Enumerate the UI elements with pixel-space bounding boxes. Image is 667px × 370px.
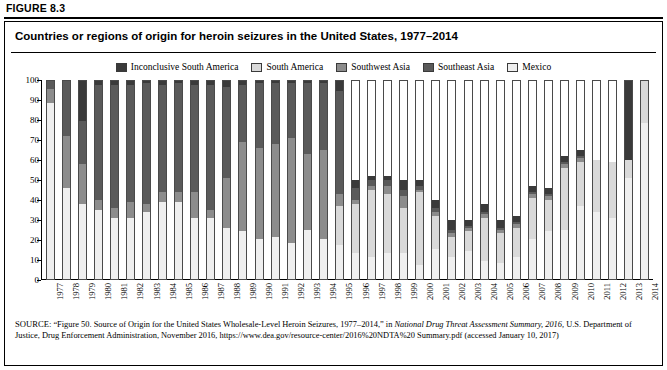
x-tick-slot: 1982 [122, 282, 138, 322]
figure-label: FIGURE 8.3 [6, 2, 65, 14]
bar-segment [79, 121, 86, 165]
bar-segment [625, 81, 632, 160]
stacked-bar [512, 80, 521, 280]
bar-segment [223, 228, 230, 279]
bar-segment [641, 81, 648, 123]
bar-segment [352, 204, 359, 254]
bar-segment [336, 245, 343, 279]
bar-segment [448, 257, 455, 279]
x-tick-slot: 2006 [508, 282, 524, 322]
bar-segment [159, 192, 166, 202]
bar-segment [400, 180, 407, 190]
y-tick-mark [37, 200, 41, 201]
bar-segment [63, 188, 70, 279]
bar-segment [127, 218, 134, 279]
stacked-bar [560, 80, 569, 280]
bar-segment [288, 243, 295, 279]
legend-item: South America [251, 62, 323, 72]
bar-slot [299, 80, 315, 280]
bar-segment [545, 231, 552, 279]
bar-segment [641, 123, 648, 279]
bar-slot [74, 80, 90, 280]
stacked-bar [640, 80, 649, 280]
bar-slot [508, 80, 524, 280]
stacked-bar [255, 80, 264, 280]
stacked-bar [544, 80, 553, 280]
legend-swatch-icon [251, 63, 262, 72]
bar-slot [605, 80, 621, 280]
bar-segment [191, 192, 198, 218]
x-tick-slot: 1978 [58, 282, 74, 322]
bar-segment [304, 230, 311, 280]
stacked-bar [206, 80, 215, 280]
bar-segment [448, 237, 455, 257]
bar-segment [400, 208, 407, 254]
bar-segment [304, 154, 311, 229]
bar-slot [122, 80, 138, 280]
bar-slot [540, 80, 556, 280]
stacked-bar [383, 80, 392, 280]
bar-slot [235, 80, 251, 280]
bar-segment [288, 138, 295, 243]
bar-slot [524, 80, 540, 280]
bar-slot [138, 80, 154, 280]
bar-segment [79, 164, 86, 204]
bar-segment [288, 83, 295, 138]
bar-segment [384, 186, 391, 194]
stacked-bar [447, 80, 456, 280]
bar-slot [58, 80, 74, 280]
legend-swatch-icon [507, 63, 518, 72]
bar-segment [384, 253, 391, 279]
bar-segment [256, 148, 263, 239]
bar-segment [207, 218, 214, 279]
bar-segment [432, 216, 439, 250]
bar-segment [256, 83, 263, 148]
bar-segment [191, 85, 198, 192]
bar-segment [95, 200, 102, 210]
x-tick-slot: 1994 [315, 282, 331, 322]
bar-segment [143, 204, 150, 212]
title-divider [11, 52, 656, 53]
y-axis-tick-labels: 0102030405060708090100 [13, 80, 39, 280]
bar-segment [239, 85, 246, 142]
bar-segment [272, 144, 279, 237]
legend-swatch-icon [116, 63, 127, 72]
stacked-bar [480, 80, 489, 280]
bar-segment [336, 81, 343, 91]
legend-swatch-icon [423, 63, 434, 72]
bar-segment [545, 200, 552, 232]
x-tick-slot: 2003 [460, 282, 476, 322]
bar-slot [364, 80, 380, 280]
legend-item: Southeast Asia [423, 62, 494, 72]
y-tick-mark [37, 80, 41, 81]
stacked-bar [528, 80, 537, 280]
x-tick-slot: 2011 [589, 282, 605, 322]
chart-title: Countries or regions of origin for heroi… [15, 30, 458, 42]
stacked-bar [367, 80, 376, 280]
y-tick-mark [37, 120, 41, 121]
bar-segment [239, 142, 246, 231]
stacked-bar [624, 80, 633, 280]
legend-swatch-icon [336, 63, 347, 72]
bar-segment [272, 237, 279, 279]
bar-segment [95, 210, 102, 279]
bar-segment [95, 85, 102, 200]
legend-item: Inconclusive South America [116, 62, 239, 72]
bar-slot [187, 80, 203, 280]
bar-slot [315, 80, 331, 280]
x-tick-slot: 2007 [524, 282, 540, 322]
bar-segment [159, 202, 166, 279]
stacked-bar [464, 80, 473, 280]
stacked-bar [126, 80, 135, 280]
stacked-bar [431, 80, 440, 280]
bar-slot [637, 80, 653, 280]
stacked-bar [222, 80, 231, 280]
figure-rule [4, 17, 663, 19]
x-tick-slot: 2010 [573, 282, 589, 322]
x-tick-slot: 1993 [299, 282, 315, 322]
legend-label: Inconclusive South America [131, 62, 239, 72]
x-tick-slot: 1989 [235, 282, 251, 322]
source-text-3: Summary.pdf (accessed January 10, 2017) [417, 331, 559, 340]
bar-slot [171, 80, 187, 280]
stacked-bar [78, 80, 87, 280]
